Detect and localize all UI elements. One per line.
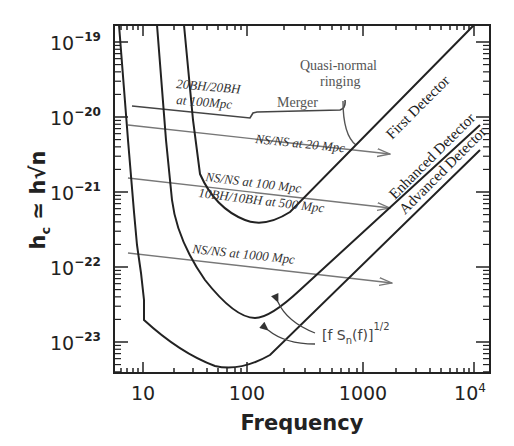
quasi-normal-ringing-pointer xyxy=(343,101,356,145)
y-axis-title: hc ≃ h√n xyxy=(26,151,53,250)
y-tick-1e-22: 10−22 xyxy=(50,255,101,279)
formula-pointer-lower xyxy=(268,330,315,344)
y-tick-1e-23: 10−23 xyxy=(50,330,101,354)
y-tick-1e-19: 10−19 xyxy=(50,30,101,54)
label-quasi-normal: Quasi-normal xyxy=(300,58,377,73)
x-tick-10000: 104 xyxy=(454,381,486,404)
y-tick-1e-20: 10−20 xyxy=(50,105,101,129)
x-tick-100: 100 xyxy=(229,382,265,404)
y-tick-labels: 10−19 10−20 10−21 10−22 10−23 xyxy=(50,30,101,354)
label-merger: Merger xyxy=(277,95,318,110)
x-tick-10: 10 xyxy=(131,382,155,404)
chart-container: 10 100 1000 104 10−19 10−20 10−21 10−22 … xyxy=(0,0,514,446)
y-tick-1e-21: 10−21 xyxy=(50,180,101,204)
chart-svg: 10 100 1000 104 10−19 10−20 10−21 10−22 … xyxy=(0,0,514,446)
x-axis-title: Frequency xyxy=(241,411,364,435)
label-formula-noise: [f Sn(f)]1/2 xyxy=(322,321,390,346)
label-ringing: ringing xyxy=(320,74,360,89)
label-ns-ns-1000mpc: NS/NS at 1000 Mpc xyxy=(191,241,296,267)
x-tick-labels: 10 100 1000 104 xyxy=(131,381,486,404)
x-ticks-top xyxy=(121,25,474,36)
label-ns-ns-20mpc: NS/NS at 20 Mpc xyxy=(254,131,346,155)
x-ticks-bottom xyxy=(121,362,474,373)
x-tick-1000: 1000 xyxy=(339,382,387,404)
